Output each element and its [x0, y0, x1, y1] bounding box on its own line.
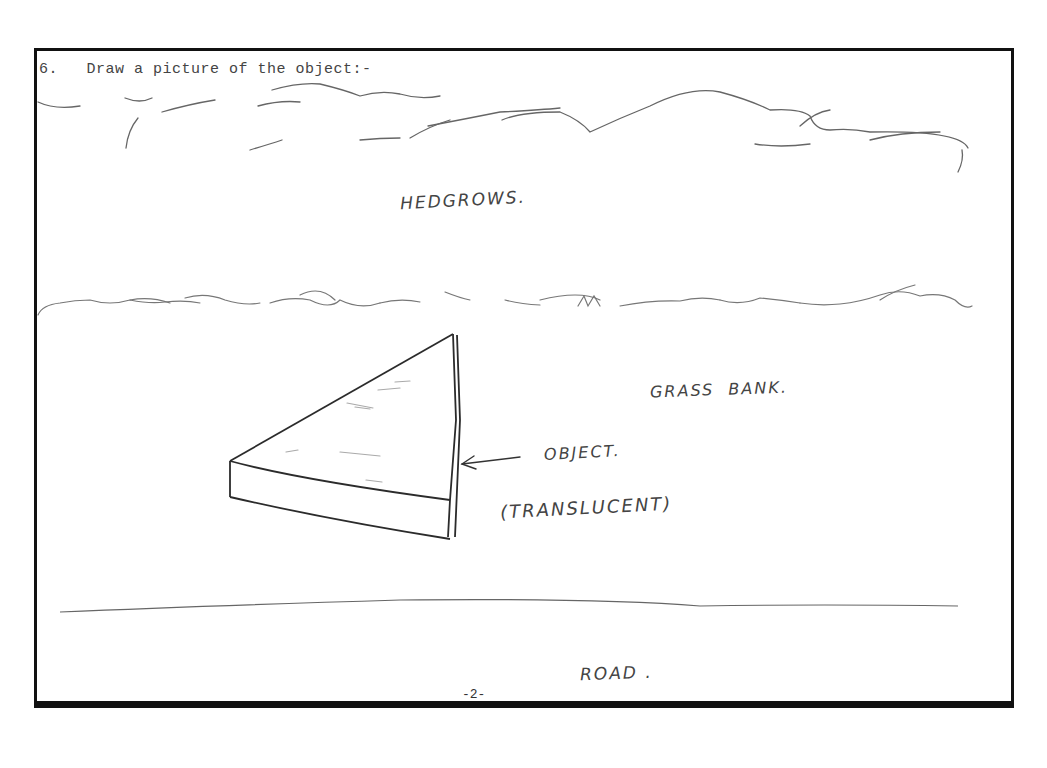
page-number: -2-	[462, 687, 485, 702]
triangular-object-outline	[230, 334, 460, 539]
object-surface-shading	[286, 381, 410, 482]
arrow-icon	[462, 456, 520, 469]
label-object: OBJECT.	[544, 441, 621, 464]
hedgerow-top-outline	[38, 84, 968, 172]
hedgerow-bottom-outline	[38, 285, 972, 315]
road-edge-line	[60, 600, 958, 612]
pencil-sketch	[0, 0, 1047, 768]
label-road: ROAD .	[580, 662, 653, 685]
